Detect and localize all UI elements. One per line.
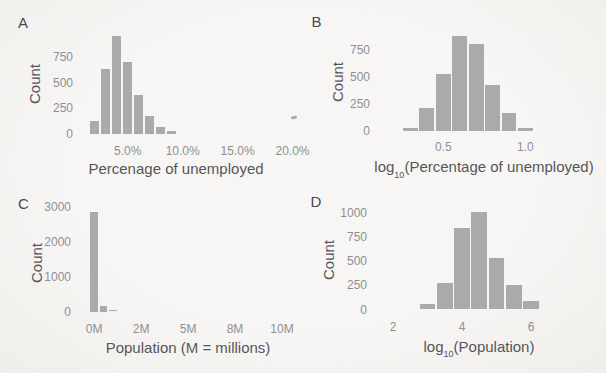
histogram-bar <box>90 212 98 312</box>
x-tick-label: 15.0% <box>221 144 255 158</box>
y-tick-label: 0 <box>66 127 73 141</box>
histogram-bar <box>436 74 451 131</box>
histogram-bar <box>454 228 470 310</box>
x-axis-title: Population (M = millions) <box>106 338 271 355</box>
y-tick-label: 250 <box>53 101 73 115</box>
panel-letter-d: D <box>311 192 322 209</box>
histogram-bar <box>100 306 108 311</box>
panel-letter-b: B <box>311 13 321 30</box>
y-tick-label: 500 <box>53 76 73 90</box>
histogram-bar <box>489 258 505 310</box>
x-axis-title-text: log <box>424 337 444 354</box>
y-tick-label: 1000 <box>44 270 71 284</box>
x-axis-title: log10(Population) <box>424 337 535 354</box>
y-axis-title: Count <box>329 62 346 102</box>
y-tick-label: 750 <box>347 230 367 244</box>
x-axis-title-subscript: 10 <box>444 349 454 359</box>
panel-c: C Count 0M2M5M8M10M0100020003000 Populat… <box>0 187 303 373</box>
panel-b: B Count 0.51.00250500750 log10(Percentag… <box>303 0 606 187</box>
histogram-bar <box>502 113 517 131</box>
panel-a: A Count 5.0%10.0%15.0%20.0%0250500750 Pe… <box>0 0 303 187</box>
x-axis-title-text: log <box>374 158 394 175</box>
x-tick-label: 10.0% <box>166 144 200 158</box>
histogram-bar <box>156 127 165 134</box>
x-tick-label: 5M <box>180 322 197 336</box>
panel-letter-c: C <box>18 194 29 211</box>
histogram-bar <box>452 36 467 131</box>
x-tick-label: 5.0% <box>114 144 141 158</box>
histogram-bar <box>420 304 436 310</box>
y-tick-label: 250 <box>347 278 367 292</box>
histogram-bar <box>485 85 500 131</box>
y-axis-title: Count <box>28 242 45 282</box>
histogram-figure: A Count 5.0%10.0%15.0%20.0%0250500750 Pe… <box>0 0 606 373</box>
x-axis-title-text: Percenage of unemployed <box>88 160 263 177</box>
y-tick-label: 750 <box>350 43 370 57</box>
y-tick-label: 750 <box>53 50 73 64</box>
x-axis-title-subscript: 10 <box>394 169 404 179</box>
x-tick-label: 2 <box>390 320 397 334</box>
histogram-bar <box>112 36 121 134</box>
x-axis-title-text: Population (M = millions) <box>106 338 271 355</box>
histogram-bar <box>101 69 110 134</box>
y-tick-label: 250 <box>350 97 370 111</box>
histogram-bar <box>523 301 539 309</box>
x-axis-title: Percenage of unemployed <box>88 160 263 177</box>
histogram-bar <box>123 62 132 134</box>
y-tick-label: 0 <box>64 305 71 319</box>
histogram-bar <box>471 212 487 309</box>
x-tick-label: 6 <box>528 320 535 334</box>
x-axis-title: log10(Percentage of unemployed) <box>374 158 593 175</box>
panel-letter-a: A <box>18 13 28 30</box>
y-tick-label: 500 <box>350 70 370 84</box>
y-axis-title: Count <box>26 64 43 104</box>
histogram-bar <box>518 128 533 131</box>
x-tick-label: 0M <box>86 322 103 336</box>
histogram-bar <box>145 116 154 134</box>
y-tick-label: 0 <box>360 303 367 317</box>
histogram-bar <box>403 128 418 131</box>
x-tick-label: 2M <box>133 322 150 336</box>
x-tick-label: 8M <box>227 322 244 336</box>
y-tick-label: 2000 <box>44 235 71 249</box>
histogram-bar <box>90 121 99 134</box>
histogram-bar <box>419 108 434 131</box>
y-axis-title: Count <box>320 239 337 279</box>
panel-d: D Count 24602505007501000 log10(Populati… <box>303 187 606 373</box>
histogram-bar <box>469 44 484 131</box>
y-tick-label: 3000 <box>44 200 71 214</box>
y-tick-label: 1000 <box>340 206 367 220</box>
y-tick-label: 0 <box>363 124 370 138</box>
y-tick-label: 500 <box>347 254 367 268</box>
x-tick-label: 4 <box>459 320 466 334</box>
x-tick-label: 10M <box>270 322 293 336</box>
x-tick-label: 1.0 <box>517 140 534 154</box>
histogram-bar <box>109 310 117 311</box>
histogram-bar <box>167 131 176 134</box>
histogram-bar <box>506 285 522 310</box>
histogram-bar <box>437 283 453 309</box>
x-tick-label: 0.5 <box>435 140 452 154</box>
x-axis-title-text-after: (Population) <box>454 337 535 354</box>
x-axis-title-text-after: (Percentage of unemployed) <box>404 158 593 175</box>
histogram-bar <box>134 95 143 134</box>
